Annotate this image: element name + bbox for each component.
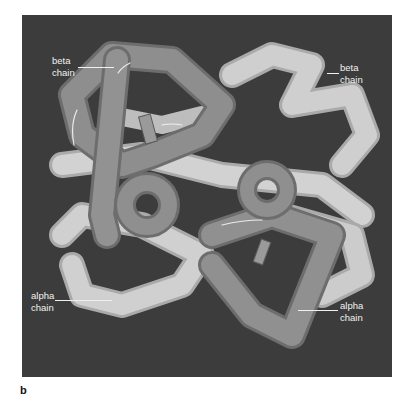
figure-panel-letter: b	[20, 384, 27, 396]
leader-line-alpha-bottom-left	[55, 300, 112, 301]
hemoglobin-illustration: beta chain beta chain alpha chain alpha …	[22, 15, 392, 377]
leader-line-beta-top-right	[327, 73, 339, 74]
label-line: chain	[340, 74, 363, 86]
label-alpha-chain-bottom-right: alpha chain	[340, 300, 363, 324]
label-line: chain	[340, 312, 363, 324]
leader-line-alpha-bottom-right	[298, 310, 338, 311]
label-line: chain	[52, 67, 75, 79]
protein-chains-graphic	[22, 15, 392, 377]
label-line: alpha	[340, 300, 363, 312]
label-line: alpha	[31, 290, 54, 302]
label-line: beta	[340, 62, 363, 74]
label-beta-chain-top-left: beta chain	[52, 55, 75, 79]
label-beta-chain-top-right: beta chain	[340, 62, 363, 86]
leader-line-beta-top-left	[78, 67, 114, 68]
label-line: chain	[31, 302, 54, 314]
label-line: beta	[52, 55, 75, 67]
label-alpha-chain-bottom-left: alpha chain	[31, 290, 54, 314]
